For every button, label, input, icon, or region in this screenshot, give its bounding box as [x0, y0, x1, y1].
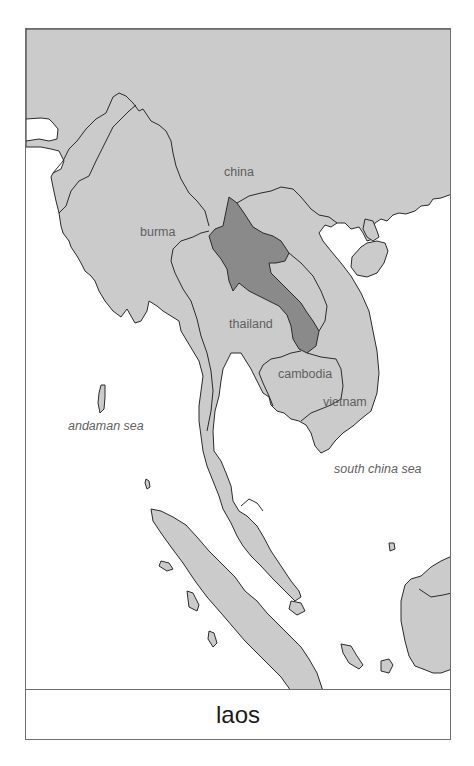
hainan-island — [351, 241, 388, 277]
borneo-island — [401, 556, 451, 673]
label-andaman-sea: andaman sea — [68, 419, 144, 433]
thailand-malaysia-border — [241, 499, 263, 511]
label-thailand: thailand — [229, 317, 273, 331]
label-vietnam: vietnam — [323, 395, 367, 409]
riau-islands — [289, 601, 305, 615]
nias-island — [187, 591, 199, 611]
andaman-islands — [98, 385, 105, 413]
label-burma: burma — [140, 225, 175, 239]
mainland-landmass — [26, 29, 451, 601]
nicobar-island — [145, 479, 150, 489]
map-svg — [26, 29, 451, 690]
map-caption: laos — [25, 689, 451, 740]
simeulue-island — [159, 561, 173, 571]
caption-title: laos — [216, 701, 260, 729]
label-south-china-sea: south china sea — [334, 462, 422, 476]
label-china: china — [224, 165, 254, 179]
label-cambodia: cambodia — [278, 367, 332, 381]
belitung-island — [381, 659, 393, 673]
bangka-island — [341, 644, 363, 669]
siberut-island — [208, 631, 217, 647]
map-frame: china burma thailand cambodia vietnam an… — [25, 28, 451, 690]
natuna-island — [389, 543, 395, 551]
